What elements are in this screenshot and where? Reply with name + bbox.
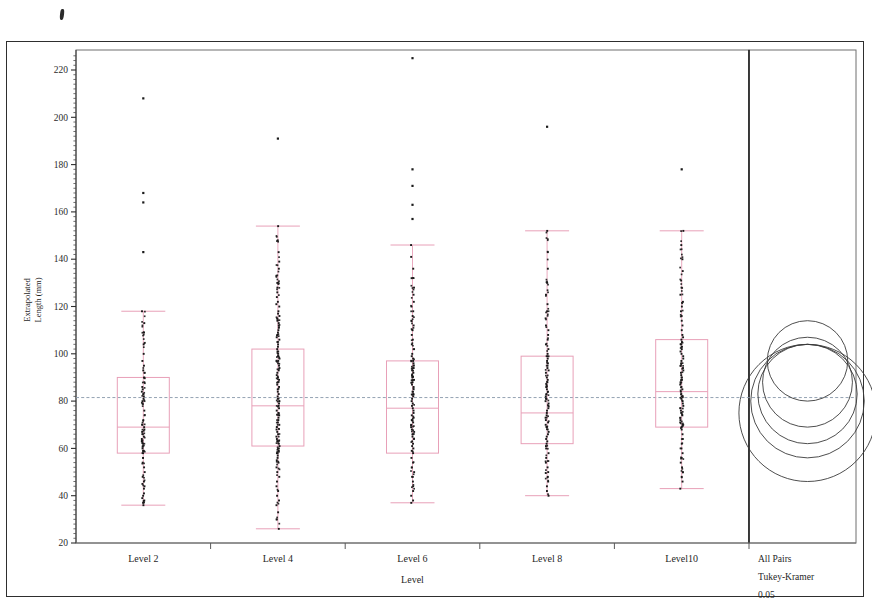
data-point bbox=[142, 457, 144, 459]
data-point bbox=[278, 436, 280, 438]
data-point bbox=[547, 480, 549, 482]
data-point bbox=[276, 504, 278, 506]
data-point bbox=[680, 423, 682, 425]
data-point bbox=[681, 353, 683, 355]
data-point bbox=[681, 303, 683, 305]
data-point bbox=[545, 395, 547, 397]
data-point bbox=[143, 477, 145, 479]
data-point bbox=[547, 358, 549, 360]
data-point bbox=[412, 379, 414, 381]
data-point bbox=[682, 425, 684, 427]
data-point bbox=[277, 424, 279, 426]
data-point bbox=[548, 495, 550, 497]
data-point bbox=[412, 318, 414, 320]
data-point bbox=[681, 368, 683, 370]
data-point bbox=[680, 387, 682, 389]
data-point bbox=[277, 310, 279, 312]
data-point bbox=[143, 450, 145, 452]
data-point bbox=[545, 469, 547, 471]
data-point bbox=[142, 495, 144, 497]
data-point bbox=[277, 457, 279, 459]
data-point bbox=[548, 310, 550, 312]
data-point bbox=[681, 254, 683, 256]
data-point bbox=[413, 431, 415, 433]
data-point bbox=[277, 332, 279, 334]
data-point bbox=[682, 472, 684, 474]
data-point bbox=[143, 492, 145, 494]
data-point bbox=[547, 329, 549, 331]
data-point bbox=[278, 424, 280, 426]
data-point bbox=[411, 467, 413, 469]
data-point bbox=[412, 420, 414, 422]
data-point bbox=[546, 440, 548, 442]
data-point bbox=[143, 445, 145, 447]
data-point bbox=[413, 301, 415, 303]
data-point bbox=[412, 418, 414, 420]
comparison-legend-line-2: Tukey-Kramer bbox=[758, 572, 815, 582]
data-point bbox=[412, 490, 414, 492]
data-point bbox=[546, 377, 548, 379]
data-point bbox=[411, 379, 413, 381]
y-axis-tick-label: 120 bbox=[54, 302, 69, 312]
data-point bbox=[278, 393, 280, 395]
data-point bbox=[412, 429, 414, 431]
data-point bbox=[679, 365, 681, 367]
data-point bbox=[277, 352, 279, 354]
data-point bbox=[142, 382, 144, 384]
data-point bbox=[680, 383, 682, 385]
data-point bbox=[681, 346, 683, 348]
data-point bbox=[680, 244, 682, 246]
outlier-point bbox=[681, 168, 683, 170]
data-point bbox=[681, 320, 683, 322]
outlier-point bbox=[411, 218, 413, 220]
data-point bbox=[277, 341, 279, 343]
data-point bbox=[410, 310, 412, 312]
data-point bbox=[411, 457, 413, 459]
y-axis-tick-label: 200 bbox=[54, 113, 69, 123]
data-point bbox=[141, 391, 143, 393]
data-point bbox=[277, 368, 279, 370]
data-point bbox=[277, 446, 279, 448]
x-axis-category-label: Level10 bbox=[665, 553, 698, 564]
data-point bbox=[279, 469, 281, 471]
data-point bbox=[278, 381, 280, 383]
data-point bbox=[277, 376, 279, 378]
data-point bbox=[278, 261, 280, 263]
data-point bbox=[276, 426, 278, 428]
data-point bbox=[277, 319, 279, 321]
data-point bbox=[545, 369, 547, 371]
data-point bbox=[277, 378, 279, 380]
data-point bbox=[277, 455, 279, 457]
data-point bbox=[682, 481, 684, 483]
data-point bbox=[143, 399, 145, 401]
y-axis-tick-label: 20 bbox=[59, 538, 69, 548]
y-axis-tick-label: 40 bbox=[59, 491, 69, 501]
data-point bbox=[546, 485, 548, 487]
data-point bbox=[413, 410, 415, 412]
data-point bbox=[680, 374, 682, 376]
data-point bbox=[276, 289, 278, 291]
data-point bbox=[546, 281, 548, 283]
data-point bbox=[412, 416, 414, 418]
outlier-point bbox=[142, 192, 144, 194]
outlier-point bbox=[546, 126, 548, 128]
data-point bbox=[411, 285, 413, 287]
data-point bbox=[413, 365, 415, 367]
data-point bbox=[412, 268, 414, 270]
data-point bbox=[680, 258, 682, 260]
data-point bbox=[141, 360, 143, 362]
data-point bbox=[144, 315, 146, 317]
data-point bbox=[413, 325, 415, 327]
data-point bbox=[547, 345, 549, 347]
data-point bbox=[680, 379, 682, 381]
data-point bbox=[412, 426, 414, 428]
data-point bbox=[411, 400, 413, 402]
data-point bbox=[681, 329, 683, 331]
data-point bbox=[277, 343, 279, 345]
data-point bbox=[410, 244, 412, 246]
data-point bbox=[412, 345, 414, 347]
data-point bbox=[546, 412, 548, 414]
data-point bbox=[276, 291, 278, 293]
data-point bbox=[143, 395, 145, 397]
data-point bbox=[413, 394, 415, 396]
